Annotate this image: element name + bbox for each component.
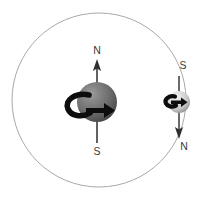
moon-south-label: S <box>179 59 186 71</box>
magnetic-orbit-diagram: N S S N <box>0 0 208 200</box>
moon-north-label: N <box>180 140 188 152</box>
diagram-canvas: N S S N <box>0 0 208 200</box>
planet-south-label: S <box>93 145 100 157</box>
planet-north-label: N <box>93 44 101 56</box>
